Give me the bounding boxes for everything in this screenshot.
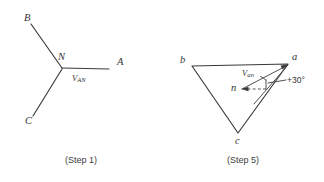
wye-leg-c — [33, 69, 62, 116]
vertex-label-b: b — [180, 55, 185, 66]
angle-annotation-plus30: +30° — [287, 76, 305, 85]
vector-label-van-subscript: AN — [77, 76, 86, 83]
terminal-label-c: C — [25, 116, 32, 127]
panel-step5: b a c n Van +30° (Step 5) — [162, 0, 324, 182]
interior-point-label-n: n — [231, 83, 236, 94]
terminal-label-a: A — [117, 57, 123, 68]
vertex-label-c: c — [235, 136, 240, 147]
line-a-to-lower — [254, 65, 288, 104]
wye-leg-a — [62, 68, 109, 69]
triangle-abc — [192, 64, 288, 133]
caption-step5: (Step 5) — [162, 156, 324, 165]
angle-leader-line — [268, 80, 286, 83]
vector-label-van-step5-subscript: an — [247, 71, 254, 78]
caption-step1: (Step 1) — [0, 156, 162, 165]
panel-step1: B C A N VAN (Step 1) — [0, 0, 162, 182]
vector-label-van-step5: Van — [242, 69, 254, 78]
neutral-node-label-n: N — [58, 52, 65, 63]
terminal-label-b: B — [24, 13, 30, 24]
vector-label-van: VAN — [72, 74, 86, 83]
figure-canvas: B C A N VAN (Step 1) b a — [0, 0, 324, 182]
vertex-label-a: a — [292, 52, 297, 63]
